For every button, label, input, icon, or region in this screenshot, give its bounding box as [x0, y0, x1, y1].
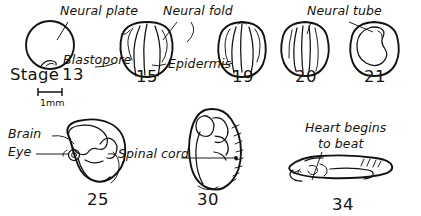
label-heart-line-1: Heart begins	[305, 120, 387, 135]
embryo-stage-34	[289, 155, 392, 181]
stage-15-number: 15	[136, 67, 158, 86]
embryo-development-figure: 1mm Neural plate Neural fold Blastopore …	[0, 0, 421, 216]
scale-bar: 1mm	[38, 88, 65, 108]
label-brain: Brain	[8, 126, 41, 141]
label-neural-plate: Neural plate	[60, 3, 138, 18]
stage-21-number: 21	[364, 67, 386, 86]
label-heart-line-2: to beat	[318, 136, 364, 151]
label-spinal-cord: Spinal cord	[118, 146, 189, 161]
label-eye: Eye	[8, 144, 31, 159]
stage-34-number: 34	[332, 195, 354, 214]
embryo-stage-25	[63, 119, 125, 183]
label-neural-fold: Neural fold	[163, 3, 233, 18]
stage-19-number: 19	[232, 67, 254, 86]
stage-13-prefix: Stage	[10, 65, 59, 84]
embryo-stage-30	[189, 109, 243, 190]
scale-bar-label: 1mm	[40, 97, 65, 108]
stage-30-number: 30	[197, 190, 219, 209]
label-neural-tube: Neural tube	[307, 3, 382, 18]
label-epidermis: Epidermis	[168, 56, 232, 71]
stage-13-number: 13	[62, 65, 84, 84]
stage-20-number: 20	[295, 67, 317, 86]
stage-25-number: 25	[87, 190, 109, 209]
